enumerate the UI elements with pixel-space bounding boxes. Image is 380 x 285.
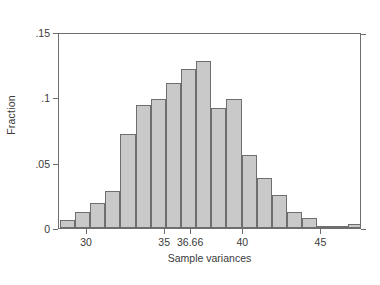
y-axis-tick-label: .1 [18,93,50,103]
x-axis-tick-mark [190,229,191,234]
histogram-figure: Fraction 0.05.1.15 303536.664045 Sample … [0,0,380,285]
y-axis-tick-label: .15 [18,28,50,38]
histogram-bar [332,226,347,228]
histogram-bar [302,218,317,228]
histogram-bar [151,99,166,228]
histogram-bar [136,105,151,228]
histogram-bar [181,69,196,228]
histogram-bar [166,83,181,228]
y-axis-tick-labels: 0.05.1.15 [18,0,50,285]
x-axis-tick-label: 36.66 [177,236,203,248]
histogram-bar [196,61,211,228]
right-edge-tick-mark [361,229,366,230]
x-axis-title: Sample variances [58,252,361,264]
x-axis-tick-label: 45 [315,236,327,248]
histogram-bar [348,224,361,228]
x-axis-tick-marks [58,229,361,235]
x-axis-tick-mark [164,229,165,234]
histogram-bar [226,99,241,228]
histogram-bars [59,34,360,228]
histogram-bar [287,212,302,228]
x-axis-tick-mark [320,229,321,234]
x-axis-tick-label: 30 [80,236,92,248]
x-axis-tick-labels: 303536.664045 [58,236,361,250]
histogram-bar [272,195,287,228]
x-axis-tick-label: 40 [236,236,248,248]
histogram-bar [60,220,75,228]
y-axis-title-text: Fraction [5,95,17,135]
histogram-bar [75,212,90,228]
right-edge-tick-mark [361,34,366,35]
x-axis-tick-mark [242,229,243,234]
x-axis-tick-mark [86,229,87,234]
x-axis-tick-label: 35 [158,236,170,248]
y-axis-tick-label: .05 [18,159,50,169]
histogram-bar [257,178,272,228]
histogram-bar [211,108,226,228]
y-axis-tick-label: 0 [18,224,50,234]
histogram-bar [120,134,135,228]
histogram-bar [317,226,332,228]
plot-area [58,33,361,229]
histogram-bar [90,203,105,228]
histogram-bar [105,191,120,228]
histogram-bar [242,155,257,228]
